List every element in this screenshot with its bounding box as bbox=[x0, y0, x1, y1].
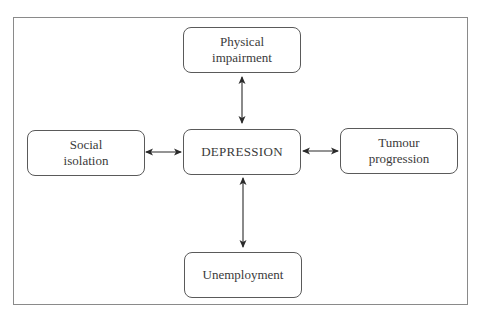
node-tumour-progression: Tumour progression bbox=[340, 128, 458, 174]
node-label: Unemployment bbox=[203, 267, 284, 283]
node-unemployment: Unemployment bbox=[184, 252, 302, 298]
node-label: Social isolation bbox=[64, 137, 109, 169]
node-physical-impairment: Physical impairment bbox=[183, 27, 301, 73]
node-label: Physical impairment bbox=[212, 34, 272, 66]
node-label: DEPRESSION bbox=[201, 144, 283, 160]
node-social-isolation: Social isolation bbox=[27, 130, 145, 176]
node-label: Tumour progression bbox=[369, 135, 430, 167]
node-depression: DEPRESSION bbox=[183, 129, 301, 175]
